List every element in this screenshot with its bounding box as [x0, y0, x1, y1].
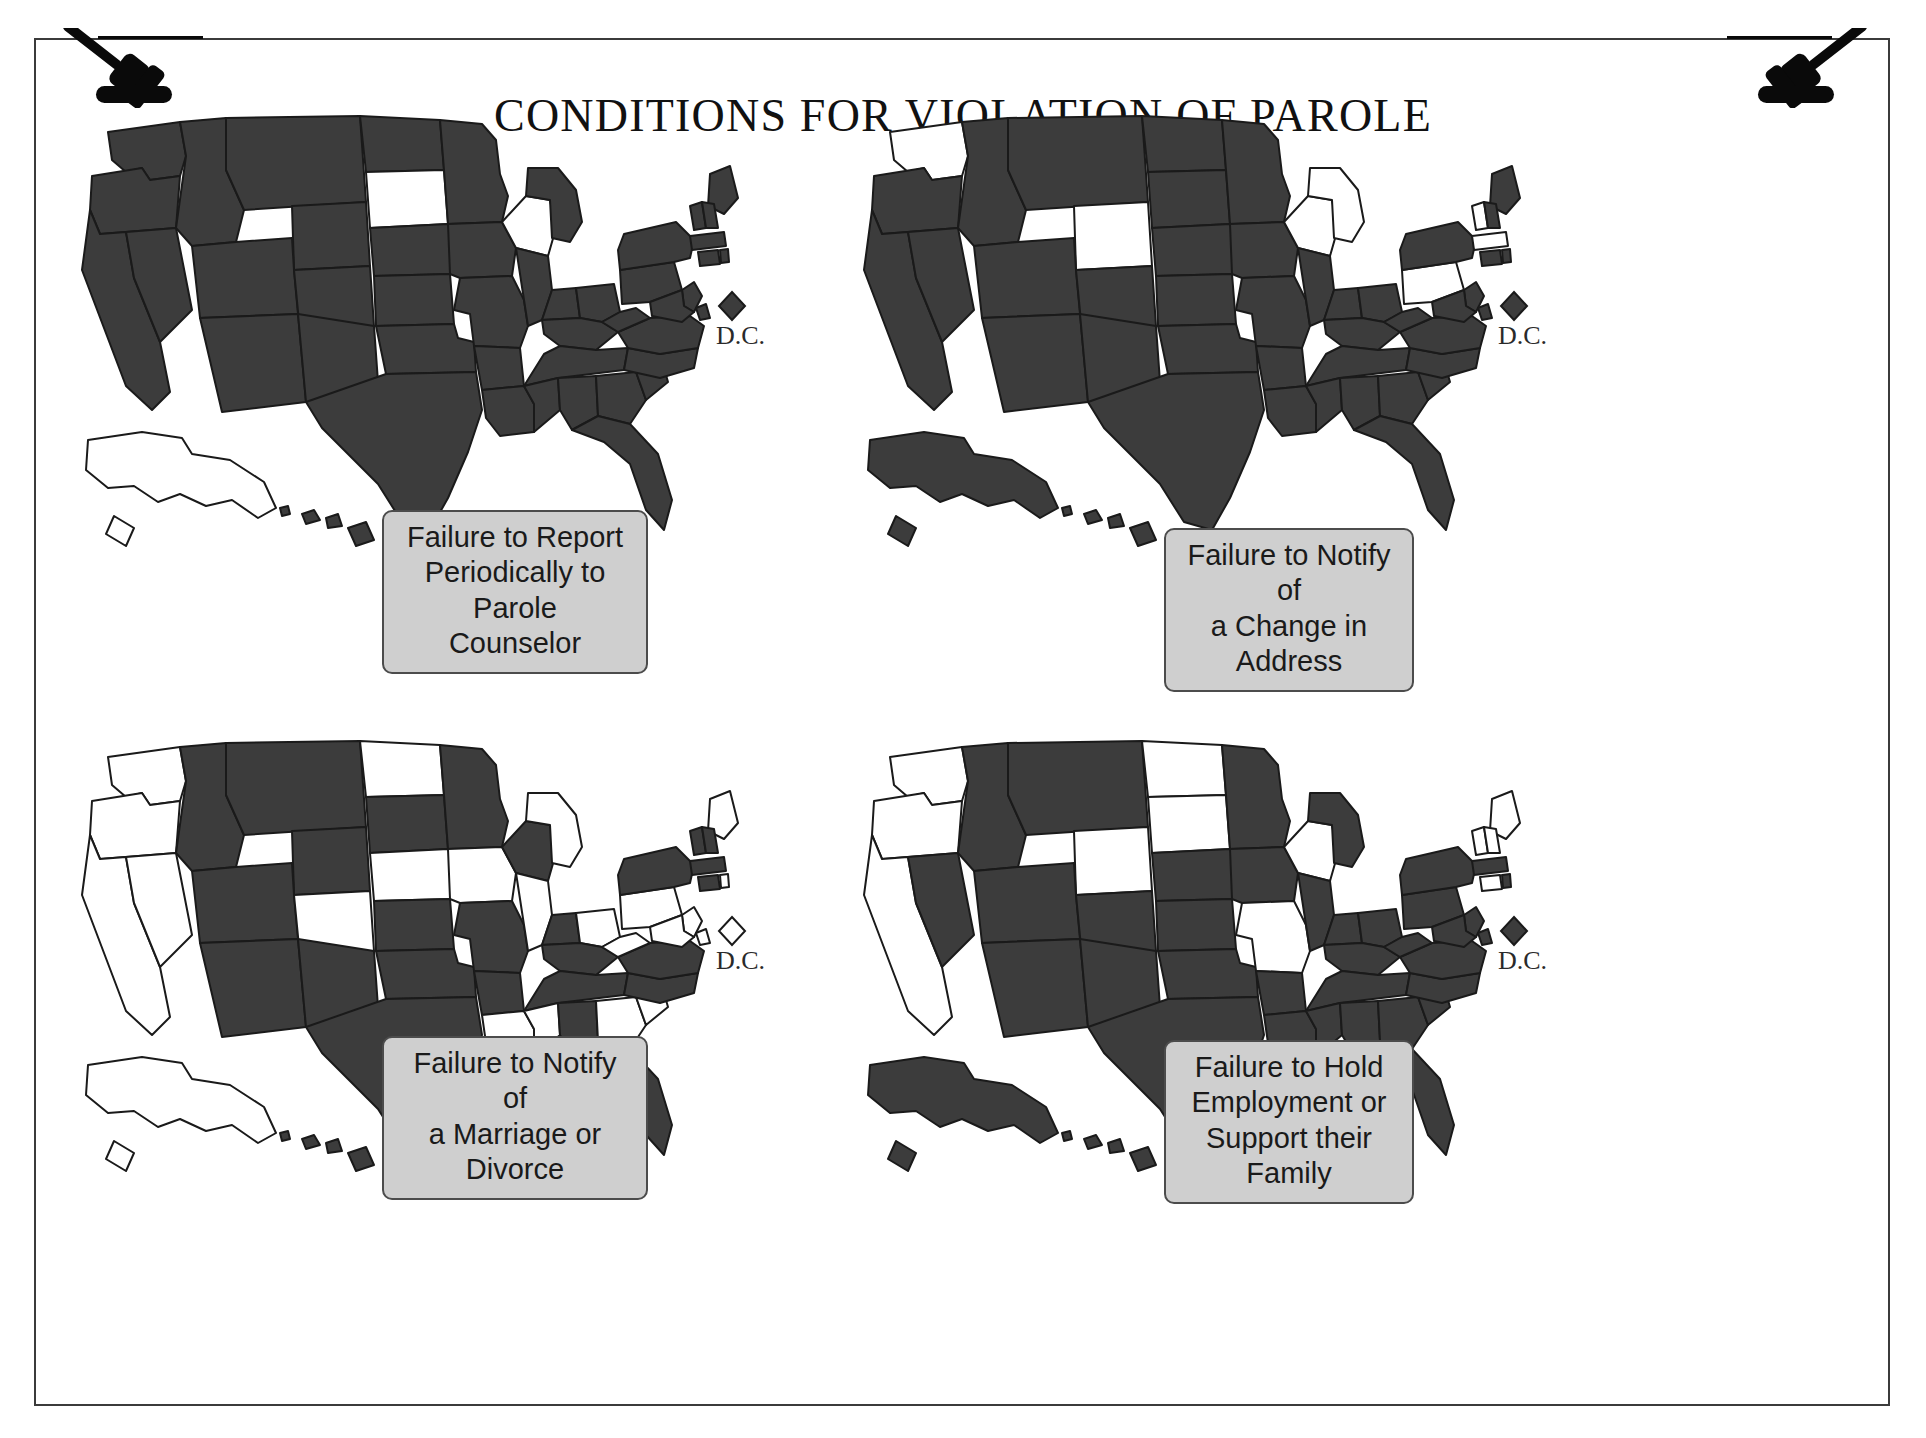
state-wy	[1074, 827, 1152, 895]
state-ok	[1158, 324, 1258, 374]
state-ct	[698, 875, 720, 891]
state-ne	[370, 849, 460, 901]
state-ks	[1156, 899, 1236, 951]
panel-caption: Failure to Hold Employment or Support th…	[1164, 1040, 1414, 1204]
state-nd	[1142, 741, 1226, 797]
state-ne	[1152, 849, 1242, 901]
state-mn	[440, 745, 508, 849]
state-ne	[1152, 224, 1242, 276]
state-mn	[1222, 745, 1290, 849]
state-az	[200, 939, 306, 1037]
state-mo	[1236, 901, 1310, 973]
state-ks	[1156, 274, 1236, 326]
state-nd	[360, 116, 444, 172]
state-mn	[440, 120, 508, 224]
state-de	[1478, 929, 1492, 945]
state-hi	[1062, 1131, 1156, 1171]
state-wy	[1074, 202, 1152, 270]
state-mo	[454, 276, 528, 348]
dc-marker-icon	[1501, 292, 1527, 320]
dc-marker-icon	[719, 917, 745, 945]
state-mo	[454, 901, 528, 973]
state-ar	[474, 346, 524, 390]
state-ma	[690, 232, 726, 250]
state-ak	[868, 432, 1058, 546]
state-mt	[226, 741, 366, 835]
state-ri	[1502, 874, 1511, 888]
state-mo	[1236, 276, 1310, 348]
state-ny	[1400, 222, 1476, 270]
state-sd	[366, 795, 448, 853]
state-la	[482, 386, 534, 436]
state-ny	[618, 222, 694, 270]
state-ok	[376, 949, 476, 999]
state-mt	[226, 116, 366, 210]
state-ri	[1502, 249, 1511, 263]
state-nd	[360, 741, 444, 797]
state-ks	[374, 274, 454, 326]
state-ma	[690, 857, 726, 875]
dc-marker-icon	[719, 292, 745, 320]
state-ar	[1256, 971, 1306, 1015]
state-ak	[86, 432, 276, 546]
dc-label: D.C.	[716, 321, 765, 350]
state-ar	[474, 971, 524, 1015]
state-sd	[1148, 795, 1230, 853]
state-fl	[1354, 416, 1454, 530]
figure-page: CONDITIONS FOR VIOLATION OF PAROLE D.C. …	[0, 0, 1926, 1438]
state-ri	[720, 874, 729, 888]
state-de	[1478, 304, 1492, 320]
state-or	[90, 793, 180, 859]
dc-label: D.C.	[1498, 946, 1547, 975]
state-ar	[1256, 346, 1306, 390]
state-tx	[306, 372, 482, 530]
state-az	[982, 939, 1088, 1037]
state-de	[696, 304, 710, 320]
state-hi	[1062, 506, 1156, 546]
state-sd	[366, 170, 448, 228]
state-or	[872, 168, 962, 234]
state-ct	[1480, 875, 1502, 891]
state-nd	[1142, 116, 1226, 172]
state-ak	[868, 1057, 1058, 1171]
state-sd	[1148, 170, 1230, 228]
state-la	[1264, 386, 1316, 436]
state-ny	[1400, 847, 1476, 895]
state-ut	[192, 863, 298, 943]
state-hi	[280, 1131, 374, 1171]
state-ma	[1472, 857, 1508, 875]
state-az	[200, 314, 306, 412]
state-ak	[86, 1057, 276, 1171]
state-mt	[1008, 741, 1148, 835]
state-ut	[192, 238, 298, 318]
state-ny	[618, 847, 694, 895]
state-mt	[1008, 116, 1148, 210]
panel-caption: Failure to Report Periodically to Parole…	[382, 510, 648, 674]
state-az	[982, 314, 1088, 412]
state-or	[872, 793, 962, 859]
panel-caption: Failure to Notify of a Marriage or Divor…	[382, 1036, 648, 1200]
dc-label: D.C.	[1498, 321, 1547, 350]
panel-caption: Failure to Notify of a Change in Address	[1164, 528, 1414, 692]
state-ma	[1472, 232, 1508, 250]
state-ok	[376, 324, 476, 374]
state-ok	[1158, 949, 1258, 999]
dc-label: D.C.	[716, 946, 765, 975]
state-wy	[292, 202, 370, 270]
state-ri	[720, 249, 729, 263]
state-mn	[1222, 120, 1290, 224]
state-ct	[1480, 250, 1502, 266]
state-ut	[974, 863, 1080, 943]
state-ks	[374, 899, 454, 951]
state-tx	[1088, 372, 1264, 530]
dc-marker-icon	[1501, 917, 1527, 945]
state-ne	[370, 224, 460, 276]
state-wy	[292, 827, 370, 895]
state-de	[696, 929, 710, 945]
state-ct	[698, 250, 720, 266]
state-ut	[974, 238, 1080, 318]
state-hi	[280, 506, 374, 546]
state-or	[90, 168, 180, 234]
